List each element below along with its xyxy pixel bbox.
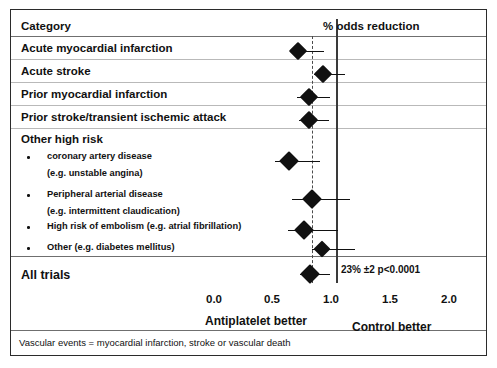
bullet-icon [27, 226, 30, 229]
bullet-icon [27, 156, 30, 159]
point-estimate-prior-mi [300, 88, 318, 106]
point-estimate-acute-stroke [314, 65, 332, 83]
sub-row-label-coronary-artery-disease: coronary artery disease [47, 152, 152, 161]
row-divider [11, 105, 486, 106]
point-estimate-other-diabetes [314, 241, 331, 258]
row-divider [11, 82, 486, 83]
point-estimate-all-trials [300, 264, 320, 284]
sub-row-label-high-risk-embolism: High risk of embolism (e.g. atrial fibri… [47, 222, 241, 231]
axis-caption-antiplatelet-better: Antiplatelet better [205, 315, 307, 327]
x-tick-label-1: 0.5 [264, 294, 280, 306]
x-tick-label-0: 0.0 [206, 294, 222, 306]
row-label-prior-stroke-tia: Prior stroke/transient ischemic attack [21, 112, 226, 124]
summary-annotation: 23% ±2 p<0.0001 [341, 265, 420, 275]
footnote-text: Vascular events = myocardial infarction,… [19, 338, 291, 348]
sub-row-note-peripheral-arterial-disease: (e.g. intermittent claudication) [47, 207, 180, 216]
point-estimate-prior-stroke-tia [300, 111, 318, 129]
subgroup-heading-other-high-risk: Other high risk [21, 134, 103, 146]
x-tick-label-4: 2.0 [441, 294, 457, 306]
x-tick-label-3: 1.5 [382, 294, 398, 306]
row-label-acute-mi: Acute myocardial infarction [21, 43, 172, 55]
bullet-icon [27, 247, 30, 250]
row-label-acute-stroke: Acute stroke [21, 66, 91, 78]
axis-caption-control-better: Control better [352, 321, 431, 333]
forest-plot-figure: Category % odds reduction Acute myocardi… [10, 9, 487, 356]
point-estimate-acute-mi [289, 42, 307, 60]
row-divider [11, 36, 486, 37]
column-header-odds-reduction: % odds reduction [323, 21, 419, 33]
point-estimate-peripheral-arterial-disease [302, 189, 322, 209]
column-header-category: Category [21, 21, 71, 33]
sub-row-note-coronary-artery-disease: (e.g. unstable angina) [47, 169, 143, 178]
point-estimate-high-risk-embolism [294, 220, 314, 240]
row-divider [11, 256, 486, 257]
summary-row-label-all-trials: All trials [21, 269, 70, 282]
x-tick-label-2: 1.0 [323, 294, 339, 306]
sub-row-label-peripheral-arterial-disease: Peripheral arterial disease [47, 190, 163, 199]
row-label-prior-mi: Prior myocardial infarction [21, 89, 167, 101]
bullet-icon [27, 194, 30, 197]
row-divider [11, 128, 486, 129]
point-estimate-coronary-artery-disease [279, 151, 299, 171]
no-effect-reference-line [336, 19, 338, 283]
row-divider [11, 59, 486, 60]
sub-row-label-other-diabetes: Other (e.g. diabetes mellitus) [47, 243, 175, 252]
